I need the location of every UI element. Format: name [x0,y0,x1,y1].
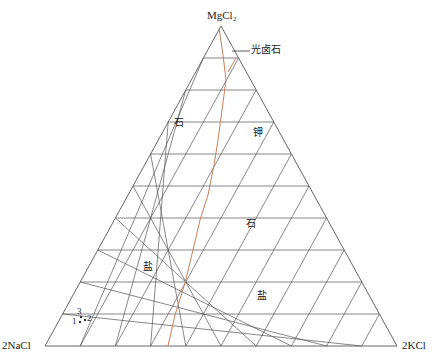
vertex-label-2nacl: 2NaCl [2,340,31,351]
region-label: 石 [174,118,184,128]
sample-point-1 [79,321,81,323]
grid-line [151,122,274,346]
ternary-grid [0,0,437,364]
region-label: 钾 [253,128,263,138]
sample-point-2 [84,319,86,321]
point-label-2: 2 [87,314,92,323]
region-label: 石 [246,219,256,229]
grid-line [291,250,344,346]
ternary-diagram: MgCl₂ 2NaCl 2KCl 光卤石 石 钾 石 盐 盐 1 2 3 [0,0,437,364]
vertex-label-2kcl: 2KCl [402,340,426,351]
grid-line [362,314,380,346]
grid-line [63,314,362,346]
point-label-1: 1 [72,317,77,326]
carnallite-label: 光卤石 [251,45,281,55]
region-label: 盐 [257,291,267,301]
region-label: 盐 [143,262,153,272]
sample-point-3 [80,316,82,318]
vertex-label-mgcl2: MgCl₂ [207,10,237,21]
point-label-3: 3 [77,307,82,316]
